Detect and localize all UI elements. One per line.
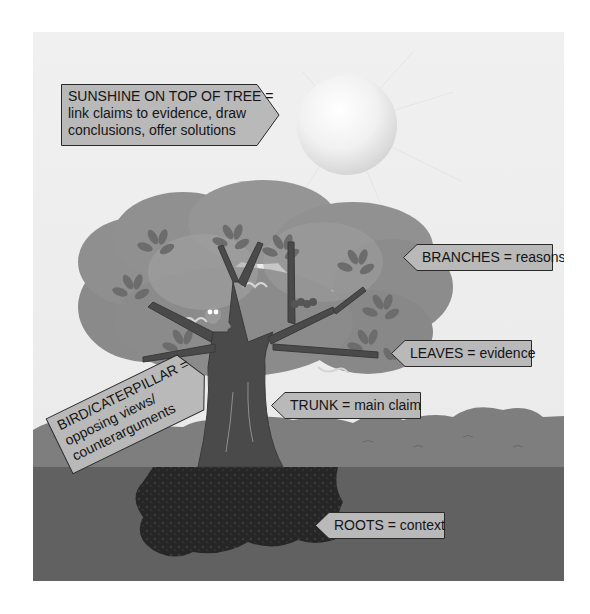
label-trunk: TRUNK = main claim bbox=[271, 392, 421, 419]
branches-text: BRANCHES = reasons bbox=[403, 244, 553, 266]
trunk-text: TRUNK = main claim bbox=[271, 392, 421, 414]
diagram-canvas: SUNSHINE ON TOP OF TREE = link claims to… bbox=[33, 32, 564, 581]
sunshine-line-2: link claims to evidence, draw bbox=[68, 105, 280, 122]
leaves-text: LEAVES = evidence bbox=[391, 340, 532, 362]
label-leaves: LEAVES = evidence bbox=[391, 340, 532, 367]
label-branches: BRANCHES = reasons bbox=[403, 244, 553, 271]
sunshine-line-1: SUNSHINE ON TOP OF TREE = bbox=[68, 88, 280, 105]
sunshine-line-3: conclusions, offer solutions bbox=[68, 122, 280, 139]
roots-text: ROOTS = context bbox=[315, 512, 445, 534]
sun-icon bbox=[297, 75, 397, 175]
label-sunshine: SUNSHINE ON TOP OF TREE = link claims to… bbox=[61, 84, 280, 146]
label-roots: ROOTS = context bbox=[315, 512, 445, 539]
